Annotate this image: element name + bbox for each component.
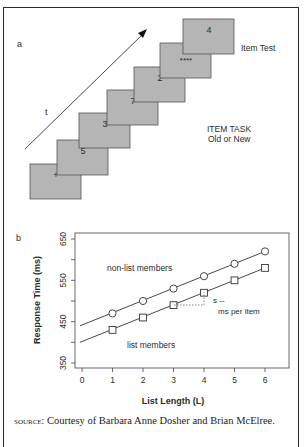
x-tick-label: 5	[232, 375, 237, 385]
x-tick-label: 1	[110, 375, 115, 385]
item-task-subtitle: Old or New	[208, 134, 251, 144]
stimulus-frames: +5372****4	[30, 19, 234, 199]
x-tick-label: 3	[171, 375, 176, 385]
square-marker-icon	[170, 302, 177, 309]
caption-text: Courtesy of Barbara Anne Dosher and Bria…	[44, 415, 275, 426]
y-tick-label: 350	[58, 356, 68, 370]
data-series	[80, 248, 269, 343]
y-tick-label: 650	[58, 232, 68, 246]
y-axis: 350450550650	[58, 232, 75, 370]
panel-b-label: b	[16, 233, 21, 243]
y-axis-title: Response Time (ms)	[32, 256, 42, 344]
x-tick-label: 0	[80, 375, 85, 385]
square-marker-icon	[262, 265, 269, 272]
list-members-label: list members	[127, 340, 175, 350]
x-tick-label: 2	[141, 375, 146, 385]
circle-marker-icon	[231, 260, 238, 267]
item-test-label: Item Test	[241, 43, 276, 53]
square-marker-icon	[109, 327, 116, 334]
item-task-title: ITEM TASK	[207, 124, 251, 134]
x-tick-label: 6	[263, 375, 268, 385]
time-label: t	[45, 107, 48, 117]
frame-text: ****	[180, 56, 192, 65]
stimulus-frame: 4	[183, 19, 234, 54]
x-axis-title: List Length (L)	[142, 396, 205, 406]
source-label: source:	[14, 416, 44, 426]
x-axis: 0123456	[80, 368, 268, 385]
circle-marker-icon	[200, 273, 207, 280]
y-tick-label: 450	[58, 314, 68, 328]
panel-a-label: a	[17, 39, 22, 49]
slope-annotation: s --	[213, 296, 225, 305]
frame-text: 4	[206, 25, 211, 35]
circle-marker-icon	[261, 248, 268, 255]
list-series	[80, 265, 268, 343]
circle-marker-icon	[109, 310, 116, 317]
x-tick-label: 4	[202, 375, 207, 385]
circle-marker-icon	[139, 297, 146, 304]
panel-a: a t +5372****4 Item Test ITEM TASK Old o…	[17, 19, 276, 199]
figure-caption: source: Courtesy of Barbara Anne Dosher …	[14, 415, 275, 426]
slope-unit-annotation: ms per item	[218, 307, 260, 316]
nonlist-members-label: non-list members	[107, 263, 172, 273]
panel-b-chart: b 350450550650 0123456 Response Time (ms…	[16, 232, 289, 406]
plot-area	[75, 233, 289, 368]
square-marker-icon	[140, 314, 147, 321]
square-marker-icon	[231, 277, 238, 284]
circle-marker-icon	[170, 285, 177, 292]
y-tick-label: 550	[58, 273, 68, 287]
